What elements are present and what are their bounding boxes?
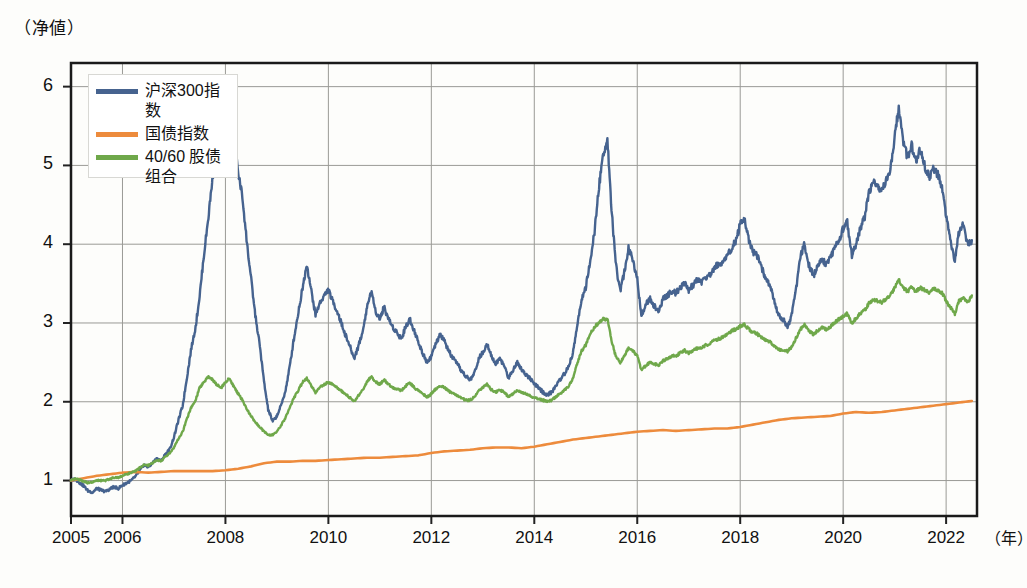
- net-value-line-chart: （净値） （年） 沪深300指数 国债指数 40/60 股债 组合 123456…: [0, 0, 1027, 588]
- series-line-bond: [71, 401, 972, 481]
- x-tick-label: 2020: [808, 528, 878, 548]
- y-tick-label: 3: [23, 311, 53, 332]
- chart-legend: 沪深300指数 国债指数 40/60 股债 组合: [88, 74, 238, 178]
- y-tick-label: 5: [23, 153, 53, 174]
- y-tick-label: 2: [23, 390, 53, 411]
- legend-label-bond: 国债指数: [145, 124, 209, 144]
- x-tick-label: 2008: [190, 528, 260, 548]
- legend-item-csi300: 沪深300指数: [96, 81, 230, 121]
- legend-item-blend: 40/60 股债 组合: [96, 147, 230, 187]
- y-tick-label: 1: [23, 469, 53, 490]
- legend-label-csi300: 沪深300指数: [145, 81, 230, 121]
- legend-label-blend: 40/60 股债: [145, 148, 221, 165]
- x-tick-label: 2016: [602, 528, 672, 548]
- y-tick-label: 6: [23, 75, 53, 96]
- series-line-blend: [71, 279, 972, 483]
- y-tick-label: 4: [23, 232, 53, 253]
- x-tick-label: 2014: [499, 528, 569, 548]
- x-tick-label: 2018: [705, 528, 775, 548]
- legend-swatch-bond: [96, 132, 138, 137]
- legend-swatch-csi300: [96, 89, 138, 94]
- x-tick-label: 2006: [87, 528, 157, 548]
- x-tick-label: 2022: [911, 528, 981, 548]
- legend-label-blend-line2: 组合: [145, 168, 177, 185]
- x-tick-label: 2010: [293, 528, 363, 548]
- x-tick-label: 2012: [396, 528, 466, 548]
- legend-item-bond: 国债指数: [96, 124, 230, 144]
- legend-swatch-blend: [96, 155, 138, 160]
